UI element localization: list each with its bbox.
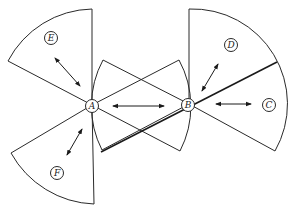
sector-dc [189,9,287,151]
node-c: C [263,99,276,112]
node-e: E [45,32,58,45]
wedge-b-to-a [91,60,189,150]
arrow-b-d [202,64,218,91]
sector-diagram: A B C D E F [0,0,288,212]
node-b-label: B [184,100,192,110]
sector-e [8,9,92,105]
node-d: D [225,39,238,52]
sector-f [11,105,94,204]
arrow-a-f [67,129,82,155]
node-d-label: D [226,40,234,50]
node-a: A [86,100,99,113]
node-e-label: E [47,33,55,43]
node-f-label: F [53,168,61,178]
arrow-a-e [55,58,80,86]
node-c-label: C [266,100,273,110]
node-f: F [51,167,64,180]
node-b: B [182,99,195,112]
node-a-label: A [88,101,96,111]
